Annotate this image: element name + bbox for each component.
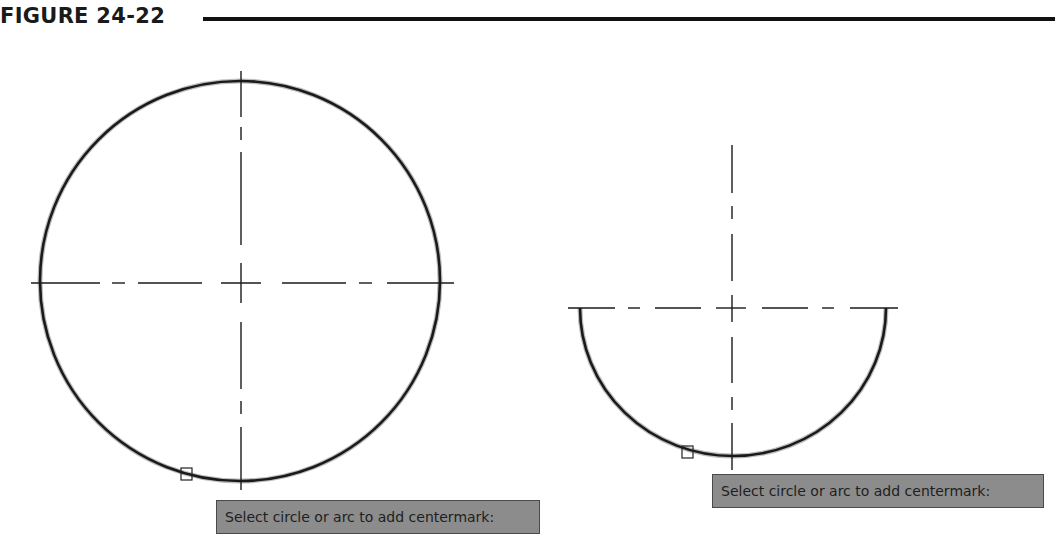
semicircle-arc[interactable] (580, 308, 886, 456)
centerline-left (31, 71, 454, 490)
full-circle[interactable] (40, 81, 440, 481)
command-prompt-tooltip-right: Select circle or arc to add centermark: (712, 474, 1044, 508)
drawing-canvas[interactable] (0, 0, 1060, 550)
centerline-right (568, 145, 898, 470)
command-prompt-tooltip-left: Select circle or arc to add centermark: (216, 500, 540, 534)
